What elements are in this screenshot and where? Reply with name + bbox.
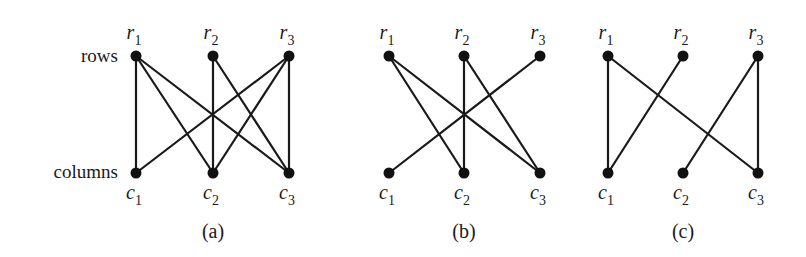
columns-label: columns xyxy=(54,161,118,182)
column-node-c1 xyxy=(603,168,614,179)
edge-r1-c3 xyxy=(608,56,758,173)
graph-caption: (b) xyxy=(452,220,475,243)
column-node-c3 xyxy=(753,168,764,179)
column-node-label: c1 xyxy=(126,181,142,208)
bipartite-graphs-figure: rows columns r1r2r3c1c2c3(a)r1r2r3c1c2c3… xyxy=(0,0,806,257)
column-node-label: c3 xyxy=(748,181,764,208)
row-node-r2 xyxy=(678,51,689,62)
column-node-label: c2 xyxy=(673,181,689,208)
edge-r2-c3 xyxy=(464,56,540,173)
row-node-label: r1 xyxy=(380,21,395,48)
row-node-label: r1 xyxy=(599,21,614,48)
column-node-label: c3 xyxy=(530,181,546,208)
graph-a: r1r2r3c1c2c3(a) xyxy=(126,21,295,243)
row-node-r2 xyxy=(208,51,219,62)
row-node-label: r2 xyxy=(204,21,219,48)
row-node-r2 xyxy=(459,51,470,62)
row-node-r1 xyxy=(384,51,395,62)
row-node-label: r3 xyxy=(280,21,295,48)
row-node-r3 xyxy=(284,51,295,62)
column-node-c2 xyxy=(459,168,470,179)
graph-c: r1r2r3c1c2c3(c) xyxy=(598,21,764,243)
edge-r1-c2 xyxy=(136,56,213,173)
graphs-layer: r1r2r3c1c2c3(a)r1r2r3c1c2c3(b)r1r2r3c1c2… xyxy=(126,21,764,243)
column-node-c3 xyxy=(535,168,546,179)
edge-r3-c2 xyxy=(683,56,758,173)
column-node-c1 xyxy=(131,168,142,179)
edge-r2-c1 xyxy=(608,56,683,173)
row-node-label: r3 xyxy=(749,21,764,48)
column-node-c2 xyxy=(208,168,219,179)
rows-label: rows xyxy=(81,45,118,66)
row-node-label: r2 xyxy=(455,21,470,48)
row-node-label: r2 xyxy=(674,21,689,48)
column-node-label: c3 xyxy=(279,181,295,208)
row-node-r1 xyxy=(131,51,142,62)
row-node-label: r1 xyxy=(127,21,142,48)
column-node-label: c1 xyxy=(379,181,395,208)
graph-caption: (c) xyxy=(672,220,694,243)
graph-b: r1r2r3c1c2c3(b) xyxy=(379,21,546,243)
column-node-c1 xyxy=(384,168,395,179)
column-node-c3 xyxy=(284,168,295,179)
graph-caption: (a) xyxy=(202,220,224,243)
row-node-r3 xyxy=(753,51,764,62)
row-node-label: r3 xyxy=(531,21,546,48)
column-node-label: c2 xyxy=(203,181,219,208)
column-node-c2 xyxy=(678,168,689,179)
edge-r1-c2 xyxy=(389,56,464,173)
column-node-label: c1 xyxy=(598,181,614,208)
row-node-r3 xyxy=(535,51,546,62)
column-node-label: c2 xyxy=(454,181,470,208)
row-node-r1 xyxy=(603,51,614,62)
